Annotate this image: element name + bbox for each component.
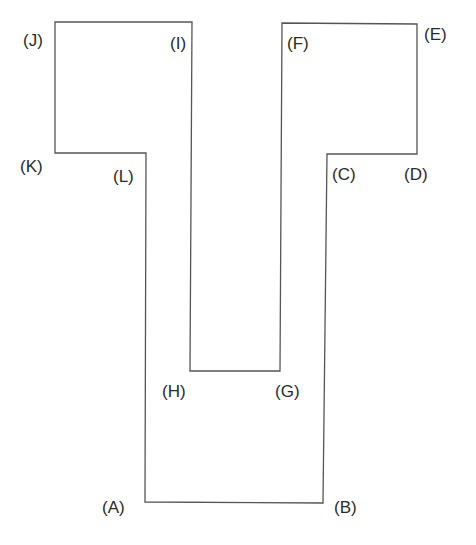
vertex-label-k: (K) xyxy=(20,157,43,176)
polygon-outline xyxy=(55,22,417,503)
polygon-diagram: (A)(B)(C)(D)(E)(F)(G)(H)(I)(J)(K)(L) xyxy=(0,0,476,545)
vertex-label-j: (J) xyxy=(23,31,43,50)
vertex-label-b: (B) xyxy=(334,498,357,517)
vertex-label-c: (C) xyxy=(332,165,356,184)
vertex-label-f: (F) xyxy=(287,34,309,53)
vertex-label-i: (I) xyxy=(170,34,186,53)
vertex-label-a: (A) xyxy=(102,498,125,517)
vertex-label-e: (E) xyxy=(424,25,447,44)
vertex-label-l: (L) xyxy=(113,167,134,186)
vertex-labels: (A)(B)(C)(D)(E)(F)(G)(H)(I)(J)(K)(L) xyxy=(20,25,447,517)
vertex-label-d: (D) xyxy=(404,165,428,184)
vertex-label-g: (G) xyxy=(275,382,300,401)
vertex-label-h: (H) xyxy=(162,382,186,401)
